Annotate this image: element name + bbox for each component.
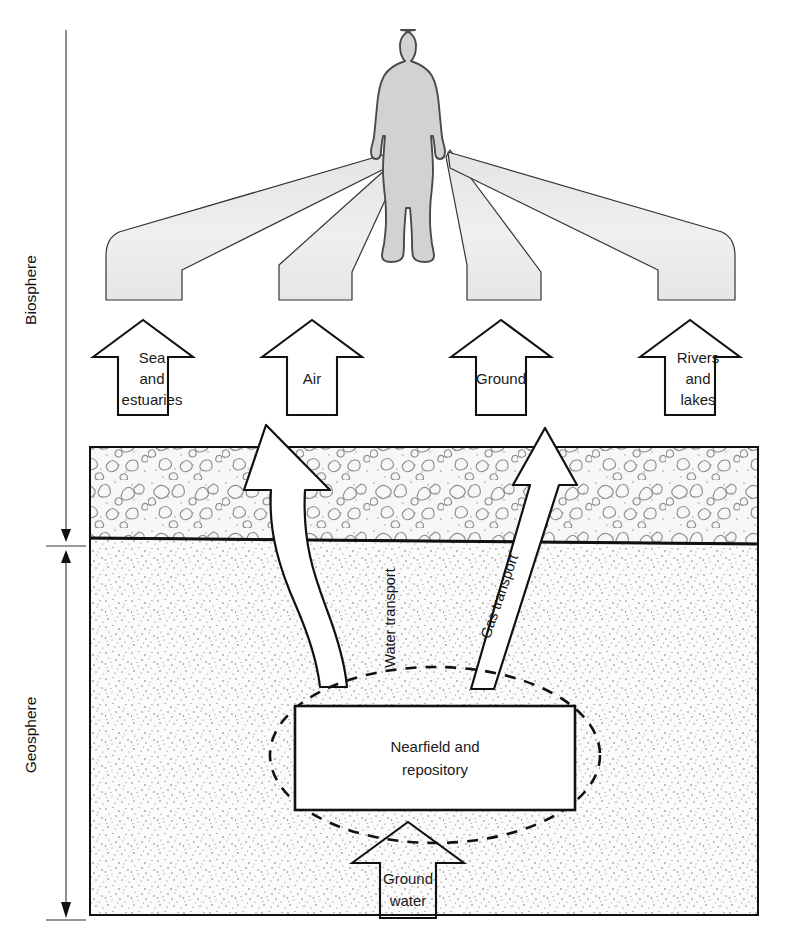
pathway-label-rivers-line3: lakes xyxy=(680,391,715,408)
groundwater-label-line2: water xyxy=(389,892,427,909)
biosphere-geosphere-diagram: Biosphere Geosphere Sea and estuaries xyxy=(0,0,790,951)
pathway-label-rivers-line1: Rivers xyxy=(677,349,720,366)
repository-label-line1: Nearfield and xyxy=(390,738,479,755)
geosphere-group: Nearfield and repository Ground water Wa… xyxy=(90,425,758,918)
pathway-label-sea-line1: Sea xyxy=(139,349,166,366)
pathway-arrow-ground[interactable]: Ground xyxy=(451,320,551,415)
diagram-canvas: Biosphere Geosphere Sea and estuaries xyxy=(0,0,790,951)
repository-label-line2: repository xyxy=(402,761,468,778)
pathway-label-rivers-line2: and xyxy=(685,370,710,387)
biosphere-arrows: Sea and estuaries Air Ground Rivers and … xyxy=(93,320,740,415)
axis-arrow-down-mid xyxy=(61,529,71,542)
pathway-arrow-sea[interactable]: Sea and estuaries xyxy=(93,320,193,415)
repository-box[interactable]: Nearfield and repository xyxy=(295,706,575,810)
pathway-label-ground-line1: Ground xyxy=(476,370,526,387)
scale-axis: Biosphere Geosphere xyxy=(22,30,86,920)
axis-label-geosphere: Geosphere xyxy=(22,697,39,774)
human-figure xyxy=(371,30,445,262)
arrow-shape-ground xyxy=(451,320,551,415)
repository-box-shape xyxy=(295,706,575,810)
axis-arrow-up-mid xyxy=(61,550,71,563)
pathway-arrow-air[interactable]: Air xyxy=(262,320,362,415)
biosphere-group: Sea and estuaries Air Ground Rivers and … xyxy=(93,30,740,415)
groundwater-label-line1: Ground xyxy=(383,870,433,887)
pathway-label-air-line1: Air xyxy=(303,370,321,387)
axis-label-biosphere: Biosphere xyxy=(22,255,39,325)
pathway-arrow-rivers[interactable]: Rivers and lakes xyxy=(640,320,740,415)
water-transport-label: Water transport xyxy=(382,568,398,667)
axis-arrow-down-bottom xyxy=(61,902,71,918)
rock-layer xyxy=(90,447,758,544)
pathway-label-sea-line3: estuaries xyxy=(122,391,183,408)
arrow-shape-air xyxy=(262,320,362,415)
pathway-label-sea-line2: and xyxy=(139,370,164,387)
